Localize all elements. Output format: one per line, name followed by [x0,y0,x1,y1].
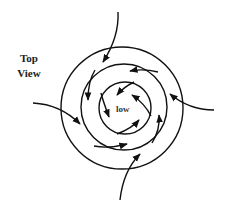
inflow-arrow-top [103,12,118,62]
flow-arrow-inner-right [132,95,151,116]
flow-arrow-middle-bottom [94,144,127,147]
flow-arrow-inner-top [117,82,134,95]
low-pressure-diagram: Top View low [0,0,227,219]
isobar-spiral-figure: low [0,0,227,219]
inflow-arrow-right [170,94,214,110]
view-label-line1: Top [8,51,50,66]
flow-arrow-middle-top [130,70,158,72]
low-pressure-label: low [116,104,130,114]
inflow-arrow-bottom [120,154,140,200]
flow-arrow-middle-left [88,70,95,100]
view-label-line2: View [8,66,50,81]
inflow-arrow-left [33,103,80,124]
flow-arrow-inner-left [101,93,109,117]
view-label: Top View [8,51,50,81]
